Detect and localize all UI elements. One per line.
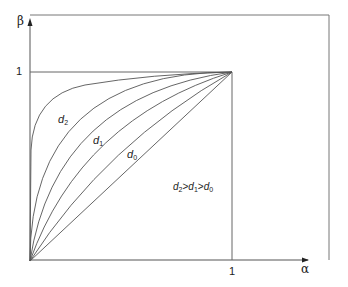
y-axis-arrow-icon [28,18,33,26]
diagram-canvas [0,0,348,287]
x-axis-label: α [301,262,309,276]
y-axis-label: β [17,14,24,28]
outer-frame [30,15,329,260]
curve-d0 [30,72,232,261]
y-tick-1: 1 [16,65,22,77]
x-tick-1: 1 [229,265,235,277]
curve-label-d0: d0 [127,148,137,161]
curve-label-d1: d1 [93,134,103,147]
curve-label-d2: d2 [58,113,68,126]
ordering-legend: d2>d1>d0 [173,181,213,193]
